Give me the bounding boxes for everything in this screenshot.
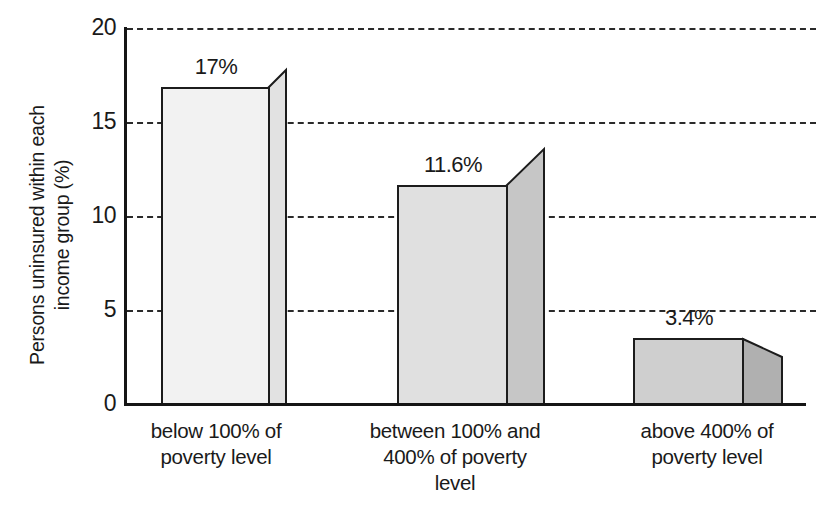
y-axis-line (124, 27, 127, 406)
x-axis-line (124, 403, 806, 406)
bar-3-front-face (633, 338, 744, 405)
bar-chart: Persons uninsured within each income gro… (0, 0, 831, 515)
x-cat-2-line-1: between 100% and (340, 418, 570, 444)
x-category-label-between-100-400: between 100% and 400% of poverty level (340, 418, 570, 496)
x-cat-2-line-3: level (340, 470, 570, 496)
x-cat-2-line-2: 400% of poverty (340, 444, 570, 470)
x-category-label-below-100: below 100% of poverty level (118, 418, 314, 470)
x-cat-3-line-1: above 400% of (607, 418, 807, 444)
x-cat-1-line-2: poverty level (118, 444, 314, 470)
x-category-label-above-400: above 400% of poverty level (607, 418, 807, 470)
x-cat-1-line-1: below 100% of (118, 418, 314, 444)
bar-3-value-label: 3.4% (629, 307, 749, 329)
x-cat-3-line-2: poverty level (607, 444, 807, 470)
